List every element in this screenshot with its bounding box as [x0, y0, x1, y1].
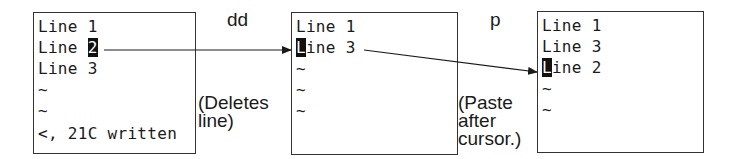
arrows [0, 0, 736, 159]
vi-delete-paste-diagram: Line 1 Line 2 Line 3 ~ ~ <, 21C written … [0, 0, 736, 159]
arrow-paste [364, 50, 537, 72]
